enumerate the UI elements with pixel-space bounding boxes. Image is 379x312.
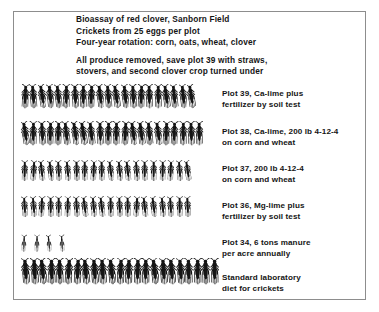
- cricket-glyph: [79, 84, 87, 109]
- cricket-icon: [154, 84, 163, 109]
- cricket-glyph: [54, 121, 62, 146]
- cricket-glyph: [195, 121, 203, 146]
- cricket-icon: [133, 196, 140, 218]
- cricket-glyph: [47, 258, 56, 285]
- cricket-icon: [98, 160, 105, 182]
- cricket-icon: [104, 84, 113, 109]
- cricket-glyph: [187, 84, 195, 109]
- cricket-glyph: [176, 196, 185, 218]
- cricket-glyph: [121, 84, 129, 109]
- row-label-line: Standard laboratory: [222, 272, 372, 283]
- cricket-icon: [54, 121, 63, 146]
- cricket-icon: [96, 121, 105, 146]
- cricket-icon: [54, 84, 63, 109]
- cricket-glyph: [38, 160, 47, 182]
- cricket-glyph: [154, 121, 162, 146]
- row-label-line: fertilizer by soil test: [222, 211, 372, 222]
- cricket-icon: [107, 160, 114, 182]
- cricket-glyph: [79, 121, 87, 146]
- cricket-glyph: [141, 258, 150, 285]
- row-label-line: diet for crickets: [222, 283, 372, 294]
- cricket-icon: [30, 196, 37, 218]
- cricket-icon: [38, 160, 45, 182]
- cricket-glyph: [116, 258, 125, 285]
- cricket-glyph: [145, 84, 153, 109]
- row-label-line: Plot 38, Ca-lime, 200 lb 4-12-4: [222, 126, 372, 137]
- cricket-glyph: [90, 160, 99, 182]
- bioassay-figure: Bioassay of red clover, Sanborn Field Cr…: [0, 0, 379, 312]
- cricket-icon: [150, 160, 157, 182]
- cricket-glyph: [90, 258, 99, 285]
- cricket-icon: [179, 84, 188, 109]
- cricket-glyph: [159, 196, 168, 218]
- cricket-glyph: [124, 160, 133, 182]
- cricket-glyph: [98, 196, 107, 218]
- cricket-count-strip: [21, 234, 71, 253]
- cricket-icon: [124, 196, 131, 218]
- cricket-icon: [73, 196, 80, 218]
- cricket-glyph: [64, 160, 73, 182]
- cricket-icon: [64, 196, 71, 218]
- cricket-count-strip: [21, 84, 195, 109]
- row-label: Plot 36, Mg-lime plusfertilizer by soil …: [222, 200, 372, 223]
- cricket-icon: [210, 258, 219, 285]
- cricket-glyph: [193, 258, 202, 285]
- cricket-glyph: [107, 196, 116, 218]
- row-label-line: Plot 37, 200 lb 4-12-4: [222, 163, 372, 174]
- row-label-line: fertilizer by soil test: [222, 99, 372, 110]
- cricket-icon: [167, 160, 174, 182]
- cricket-icon: [62, 84, 71, 109]
- cricket-glyph: [167, 160, 176, 182]
- cricket-icon: [179, 121, 188, 146]
- cricket-icon: [96, 84, 105, 109]
- pictograph-row: Plot 38, Ca-lime, 200 lb 4-12-4on corn a…: [13, 121, 366, 154]
- cricket-icon: [46, 84, 55, 109]
- cricket-glyph: [176, 258, 185, 285]
- cricket-glyph: [124, 258, 133, 285]
- row-label-line: Plot 36, Mg-lime plus: [222, 200, 372, 211]
- cricket-glyph: [87, 121, 95, 146]
- cricket-glyph: [29, 84, 37, 109]
- pictograph-row: Plot 34, 6 tons manureper acre annually: [13, 234, 366, 261]
- cricket-glyph: [73, 160, 82, 182]
- cricket-icon: [137, 121, 146, 146]
- cricket-glyph: [59, 234, 72, 253]
- cricket-glyph: [62, 84, 70, 109]
- cricket-icon: [29, 84, 38, 109]
- cricket-count-strip: [21, 258, 219, 285]
- caption-line-5: stovers, and second clover crop turned u…: [76, 66, 361, 78]
- cricket-icon: [90, 160, 97, 182]
- cricket-glyph: [112, 84, 120, 109]
- cricket-glyph: [46, 84, 54, 109]
- cricket-glyph: [184, 258, 193, 285]
- cricket-icon: [47, 196, 54, 218]
- cricket-glyph: [30, 196, 39, 218]
- cricket-glyph: [55, 258, 64, 285]
- cricket-glyph: [55, 160, 64, 182]
- cricket-glyph: [54, 84, 62, 109]
- cricket-icon: [184, 160, 191, 182]
- cricket-icon: [133, 160, 140, 182]
- pictograph-plot-area: Plot 39, Ca-lime plusfertilizer by soil …: [13, 82, 366, 300]
- cricket-glyph: [124, 196, 133, 218]
- cricket-glyph: [34, 234, 47, 253]
- cricket-icon: [81, 160, 88, 182]
- cricket-glyph: [87, 84, 95, 109]
- cricket-glyph: [162, 84, 170, 109]
- cricket-icon: [21, 121, 30, 146]
- cricket-glyph: [170, 84, 178, 109]
- cricket-icon: [137, 84, 146, 109]
- cricket-icon: [62, 121, 71, 146]
- cricket-glyph: [184, 160, 193, 182]
- cricket-glyph: [55, 196, 64, 218]
- cricket-icon: [145, 84, 154, 109]
- cricket-glyph: [201, 258, 210, 285]
- cricket-icon: [176, 196, 183, 218]
- cricket-icon: [170, 121, 179, 146]
- cricket-glyph: [162, 121, 170, 146]
- cricket-glyph: [176, 160, 185, 182]
- cricket-glyph: [21, 234, 34, 253]
- cricket-glyph: [145, 121, 153, 146]
- row-label-line: on corn and wheat: [222, 137, 372, 148]
- row-label: Standard laboratorydiet for crickets: [222, 272, 372, 295]
